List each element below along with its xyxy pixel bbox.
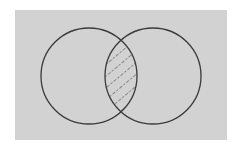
venn-diagram <box>0 0 237 145</box>
